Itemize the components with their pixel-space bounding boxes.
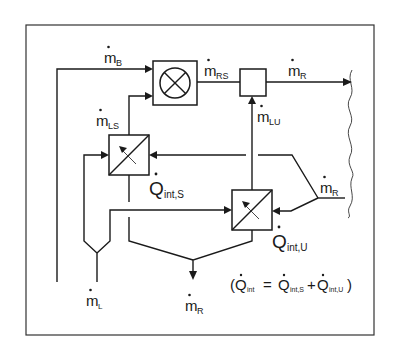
label-m-lu: m LU [257, 105, 281, 127]
svg-text:Q: Q [272, 231, 287, 252]
arrow-head [224, 206, 232, 214]
equation-q-int: ( Q int = Q int,S + Q int,U ) [230, 274, 352, 293]
label-m-ls: m LS [96, 109, 119, 131]
svg-text:Q: Q [149, 178, 164, 199]
svg-text:m: m [96, 112, 109, 129]
svg-text:R: R [197, 306, 204, 316]
svg-text:Q: Q [317, 276, 329, 293]
arrow-head [272, 207, 280, 215]
label-m-l: m L [86, 289, 103, 311]
svg-text:m: m [86, 292, 99, 309]
svg-text:m: m [185, 297, 198, 314]
arrow-head [101, 151, 109, 159]
arrow-head [145, 65, 153, 73]
svg-text:): ) [347, 276, 352, 293]
svg-text:int,U: int,U [329, 286, 343, 293]
svg-text:B: B [116, 58, 122, 68]
arrow-head [149, 151, 157, 159]
svg-text:int: int [247, 286, 254, 293]
svg-text:int,U: int,U [287, 242, 308, 253]
svg-text:m: m [288, 62, 301, 79]
svg-text:=: = [263, 276, 272, 293]
svg-text:m: m [204, 62, 217, 79]
label-m-r-right: m R [320, 176, 339, 198]
svg-text:m: m [320, 179, 333, 196]
svg-text:int,S: int,S [164, 189, 184, 200]
label-q-int-u: Q int,U [272, 226, 308, 253]
flow-m-l-to-hx-s [84, 155, 103, 282]
junction-box [240, 69, 266, 96]
svg-text:m: m [104, 49, 117, 66]
svg-text:+: + [307, 276, 316, 293]
flow-hx-u-out [193, 230, 252, 272]
flow-hx-s-out-b [129, 217, 193, 260]
svg-text:R: R [332, 188, 339, 198]
svg-text:int,S: int,S [290, 286, 304, 293]
arrow-head [248, 96, 256, 104]
flow-m-ls [129, 96, 147, 135]
svg-text:Q: Q [278, 276, 290, 293]
label-m-r-top: m R [288, 59, 307, 81]
system-boundary-wavy [348, 70, 353, 218]
arrow-head [145, 92, 153, 100]
label-m-rs: m RS [204, 59, 229, 81]
flow-m-l-to-hx-u [97, 210, 226, 253]
svg-text:RS: RS [216, 71, 229, 81]
flow-m-r-to-hx-u [280, 198, 318, 211]
arrow-head [189, 271, 197, 280]
svg-text:Q: Q [235, 276, 247, 293]
svg-text:L: L [98, 302, 103, 311]
svg-text:LS: LS [108, 121, 119, 131]
label-q-int-s: Q int,S [149, 173, 184, 200]
label-m-b: m B [104, 46, 122, 68]
diagram-canvas: m B m RS m R m LS m LU m R Q int,S Q int… [0, 0, 393, 353]
svg-text:m: m [257, 108, 270, 125]
label-m-r-bottom: m R [185, 294, 204, 316]
svg-text:R: R [300, 71, 307, 81]
svg-text:LU: LU [269, 117, 281, 127]
